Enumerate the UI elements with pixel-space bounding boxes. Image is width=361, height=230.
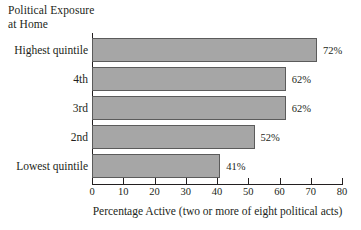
bar-value-label: 72% [323,45,342,56]
x-axis-line [92,184,343,185]
bar [92,67,286,91]
bar-row: 72% [92,38,342,62]
bar-row: 62% [92,96,342,120]
bar [92,38,317,62]
bar-value-label: 41% [226,161,245,172]
category-label: 3rd [73,102,88,114]
x-tick-label: 30 [171,186,201,197]
bar [92,96,286,120]
x-tick-label: 40 [202,186,232,197]
bar-value-label: 52% [261,132,280,143]
x-tick [248,178,249,184]
category-label: Highest quintile [14,44,88,56]
bar-row: 52% [92,125,342,149]
bar-value-label: 62% [292,74,311,85]
x-tick [342,178,343,184]
bar [92,125,255,149]
x-tick-label: 70 [296,186,326,197]
bar-row: 41% [92,154,342,178]
x-tick-label: 80 [327,186,357,197]
x-tick [123,178,124,184]
x-axis-label: Percentage Active (two or more of eight … [92,205,343,217]
x-tick [186,178,187,184]
x-tick-label: 20 [140,186,170,197]
bar-row: 62% [92,67,342,91]
bar-chart: Political Exposure at Home Percentage Ac… [0,0,361,230]
bar [92,154,220,178]
chart-title: Political Exposure at Home [8,4,94,31]
category-label: Lowest quintile [16,160,88,172]
x-tick [155,178,156,184]
x-tick-label: 60 [265,186,295,197]
x-tick-label: 50 [233,186,263,197]
x-tick-label: 10 [108,186,138,197]
category-label: 4th [73,73,88,85]
bar-value-label: 62% [292,103,311,114]
x-tick-label: 0 [77,186,107,197]
x-tick [311,178,312,184]
x-tick [280,178,281,184]
x-tick [92,178,93,184]
category-label: 2nd [71,131,88,143]
x-tick [217,178,218,184]
